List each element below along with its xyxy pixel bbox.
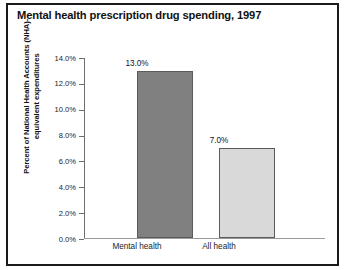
bar-all-health[interactable]	[219, 148, 275, 238]
y-tick-label: 4.0%	[59, 184, 76, 192]
bar-value-label-mental-health: 13.0%	[109, 60, 165, 68]
y-tick-label: 6.0%	[59, 158, 76, 166]
bar-value-label-all-health: 7.0%	[191, 137, 247, 145]
y-tick-label: 12.0%	[54, 80, 76, 88]
bars-layer	[84, 58, 325, 238]
x-axis-line	[84, 238, 325, 239]
chart-figure: Mental health prescription drug spending…	[0, 0, 345, 270]
y-axis-title: Percent of National Health Accounts (NHA…	[22, 1, 43, 191]
bar-mental-health[interactable]	[137, 71, 193, 238]
y-tick-label: 10.0%	[54, 106, 76, 114]
y-tick-label: 0.0%	[59, 236, 76, 244]
y-tick-label: 2.0%	[59, 210, 76, 218]
x-tick-label-all-health: All health	[183, 243, 255, 251]
x-tick-label-mental-health: Mental health	[101, 243, 173, 251]
y-tick-label: 8.0%	[59, 132, 76, 140]
y-tick-label: 14.0%	[54, 55, 76, 63]
